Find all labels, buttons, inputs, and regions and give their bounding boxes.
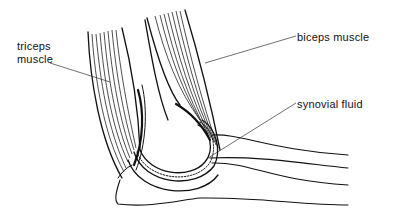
- triceps-label: triceps muscle: [17, 40, 53, 66]
- forearm-bones: [116, 135, 348, 205]
- triceps-label-line1: triceps: [17, 40, 53, 53]
- triceps-muscle-shape: [88, 28, 145, 178]
- biceps-leader-line: [205, 36, 296, 63]
- triceps-leader-line: [50, 63, 110, 82]
- triceps-label-line2: muscle: [17, 53, 53, 66]
- elbow-joint-diagram: triceps muscle biceps muscle synovial fl…: [0, 0, 393, 218]
- synovial-leader-line: [208, 103, 296, 158]
- synovial-fluid-label: synovial fluid: [297, 98, 363, 111]
- biceps-muscle-shape: [147, 10, 220, 150]
- biceps-label: biceps muscle: [297, 31, 369, 44]
- humerus-bone: [145, 20, 168, 120]
